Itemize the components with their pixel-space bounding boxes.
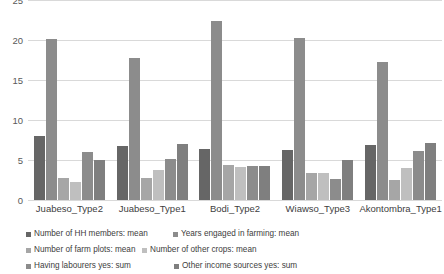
bar [177,144,188,200]
bar [365,145,376,200]
bar [211,21,222,200]
bar-group [194,0,277,222]
y-axis-tick-label: 5 [18,156,23,165]
legend-item: Number of farm plots: mean [26,242,136,258]
y-axis-tick-label: 10 [12,116,23,125]
x-axis-category-label: Juabeso_Type1 [111,200,194,218]
legend-swatch-icon [173,232,178,237]
bar [401,168,412,200]
bar [342,160,353,200]
legend-label: Years engaged in farming: mean [181,229,299,239]
bar [94,160,105,200]
x-axis-category-label: Bodi_Type2 [194,200,277,218]
bar [129,58,140,200]
bar [165,159,176,200]
legend-swatch-icon [174,264,179,269]
bar-groups [28,0,442,222]
bar [235,167,246,200]
chart-legend: Number of HH members: meanYears engaged … [26,226,426,264]
plot-area: 0510152025 [0,0,444,222]
bar [46,39,57,200]
grid-area [28,0,442,222]
bar [34,136,45,200]
legend-swatch-icon [26,264,31,269]
bar [82,152,93,200]
legend-item: Having labourers yes: sum [26,258,168,274]
bar [389,180,400,200]
legend-label: Having labourers yes: sum [34,261,131,271]
bar-group [276,0,359,222]
bar [330,179,341,200]
legend-swatch-icon [142,248,147,253]
bar [141,178,152,200]
legend-item: Other income sources yes: sum [174,258,284,274]
bar [153,170,164,200]
bar-group [111,0,194,222]
legend-label: Number of farm plots: mean [34,245,135,255]
y-axis-tick-label: 20 [12,36,23,45]
legend-label: Number of HH members: mean [34,229,148,239]
bar [425,143,436,200]
bar [117,146,128,200]
legend-item: Number of HH members: mean [26,226,167,242]
bar [282,150,293,200]
legend-label: Number of other crops: mean [150,245,257,255]
legend-label: Other income sources yes: sum [182,261,297,271]
x-axis: Juabeso_Type2Juabeso_Type1Bodi_Type2Wiaw… [28,200,442,218]
x-axis-category-label: Juabeso_Type2 [28,200,111,218]
y-axis-tick-label: 25 [12,0,23,5]
bar-group [28,0,111,222]
legend-item: Number of other crops: mean [142,242,283,258]
bar [247,166,258,200]
bar [70,182,81,200]
legend-swatch-icon [26,248,31,253]
y-axis-tick-label: 15 [12,76,23,85]
bar-group [359,0,442,222]
bar [306,173,317,200]
bar [199,149,210,200]
x-axis-category-label: Wiawso_Type3 [276,200,359,218]
bar [259,166,270,200]
bar [377,62,388,200]
y-axis-tick-label: 0 [18,196,23,205]
bar [318,173,329,200]
y-axis: 0510152025 [0,0,26,222]
bar [294,38,305,200]
bar [58,178,69,200]
legend-item: Years engaged in farming: mean [173,226,315,242]
x-axis-category-label: Akontombra_Type1 [359,200,442,218]
legend-swatch-icon [26,232,31,237]
bar [223,165,234,200]
bar [413,151,424,200]
